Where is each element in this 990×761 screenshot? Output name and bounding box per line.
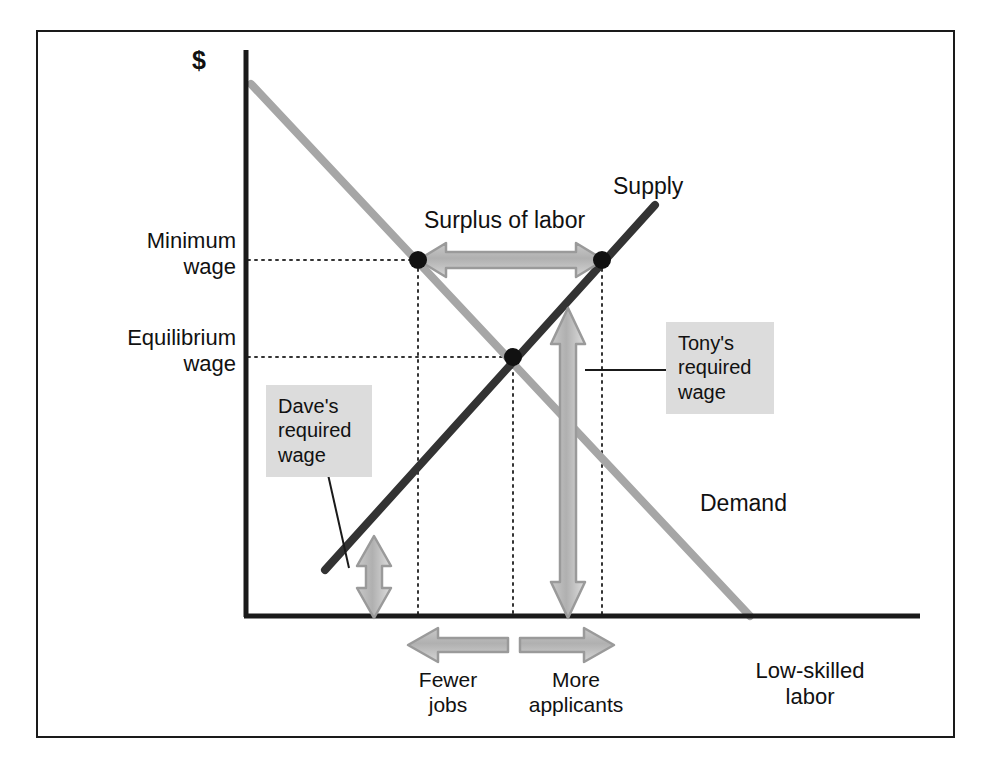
x-axis-label: Low-skilled labor (730, 658, 890, 711)
point-demand-at-min-wage (409, 251, 427, 269)
supply-curve-label: Supply (613, 173, 683, 200)
more-applicants-arrow (520, 628, 614, 662)
point-supply-at-min-wage (593, 251, 611, 269)
fewer-jobs-arrow (408, 628, 508, 662)
daves-wage-arrow (357, 536, 391, 618)
figure-canvas: $ Minimum wage Equilibrium wage Supply D… (0, 0, 990, 761)
daves-required-wage-callout: Dave's required wage (266, 385, 372, 477)
fewer-jobs-label: Fewer jobs (392, 668, 504, 718)
y-axis-currency-symbol: $ (192, 46, 206, 75)
y-tick-equilibrium-wage: Equilibrium wage (64, 325, 236, 377)
y-tick-minimum-wage: Minimum wage (84, 228, 236, 280)
more-applicants-label: More applicants (510, 668, 642, 718)
demand-curve-label: Demand (700, 490, 787, 517)
chart-plot (0, 0, 990, 761)
surplus-arrow (418, 243, 604, 277)
surplus-of-labor-label: Surplus of labor (424, 207, 585, 234)
point-equilibrium (504, 348, 522, 366)
tonys-required-wage-callout: Tony's required wage (666, 322, 774, 414)
tonys-wage-arrow (551, 308, 585, 618)
